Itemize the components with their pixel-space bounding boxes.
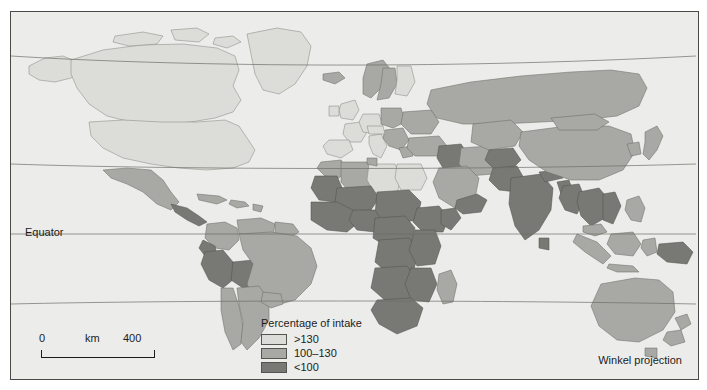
region-ireland (329, 106, 339, 116)
world-map[interactable]: .lt{fill:#dcdcd8;stroke:#8a8a84;stroke-w… (10, 11, 699, 380)
legend-title: Percentage of intake (261, 317, 362, 329)
legend-swatch-mid (261, 348, 287, 359)
legend-item-mid[interactable]: 100–130 (261, 347, 362, 359)
legend-label-mid: 100–130 (294, 347, 337, 359)
scale-bar: 0 km 400 (39, 332, 161, 362)
scale-bar-rule (41, 350, 155, 358)
legend-item-high[interactable]: >130 (261, 333, 362, 345)
projection-label: Winkel projection (598, 355, 682, 366)
region-sri-lanka (539, 238, 549, 250)
map-page: .lt{fill:#dcdcd8;stroke:#8a8a84;stroke-w… (0, 0, 707, 390)
legend-swatch-low (261, 362, 287, 373)
equator-label: Equator (25, 227, 64, 238)
legend-label-low: <100 (294, 361, 319, 373)
legend-item-low[interactable]: <100 (261, 361, 362, 373)
region-alps-austria (367, 126, 385, 134)
scale-zero: 0 (39, 332, 45, 344)
region-central-asia (471, 120, 523, 150)
legend-swatch-high (261, 334, 287, 345)
map-legend: Percentage of intake >130 100–130 <100 (261, 317, 362, 375)
scale-unit: km (85, 332, 100, 344)
region-egypt (395, 164, 427, 190)
scale-max: 400 (123, 332, 141, 344)
legend-label-high: >130 (294, 333, 319, 345)
